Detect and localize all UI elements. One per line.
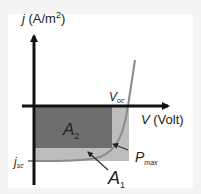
jsc-label: jsc — [12, 155, 24, 169]
pmax-label: Pmax — [135, 149, 158, 166]
jv-diagram: j (A/m2) V (Volt) Voc jsc A2 A1 Pmax — [0, 0, 201, 194]
y-axis-label: j (A/m2) — [20, 10, 65, 26]
x-axis-label: V (Volt) — [141, 112, 184, 127]
a1-label: A1 — [107, 168, 125, 190]
voc-label: Voc — [109, 90, 125, 104]
